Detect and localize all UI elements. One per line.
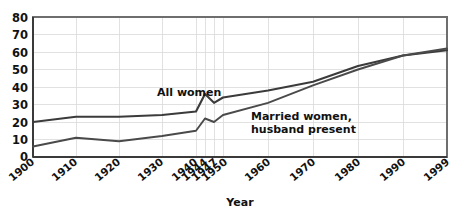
- y-tick-40: 40: [12, 81, 28, 95]
- y-tick-30: 30: [12, 98, 28, 112]
- y-tick-60: 60: [12, 46, 28, 60]
- y-tick-10: 10: [12, 133, 28, 147]
- chart-background: [0, 0, 467, 213]
- y-axis-tick-labels: 80 70 60 50 40 30 20 10 0: [12, 11, 28, 165]
- line-chart: 80 70 60 50 40 30 20 10 0 1900 1910 1920…: [0, 0, 467, 213]
- y-tick-80: 80: [12, 11, 28, 25]
- x-axis-title: Year: [225, 196, 254, 209]
- annotation-married-women-line1: Married women,: [251, 110, 352, 123]
- y-tick-70: 70: [12, 28, 28, 42]
- y-tick-20: 20: [12, 116, 28, 130]
- y-tick-50: 50: [12, 63, 28, 77]
- annotation-all-women: All women: [157, 86, 221, 99]
- annotation-married-women-line2: husband present: [251, 123, 356, 136]
- chart-container: 80 70 60 50 40 30 20 10 0 1900 1910 1920…: [0, 0, 467, 213]
